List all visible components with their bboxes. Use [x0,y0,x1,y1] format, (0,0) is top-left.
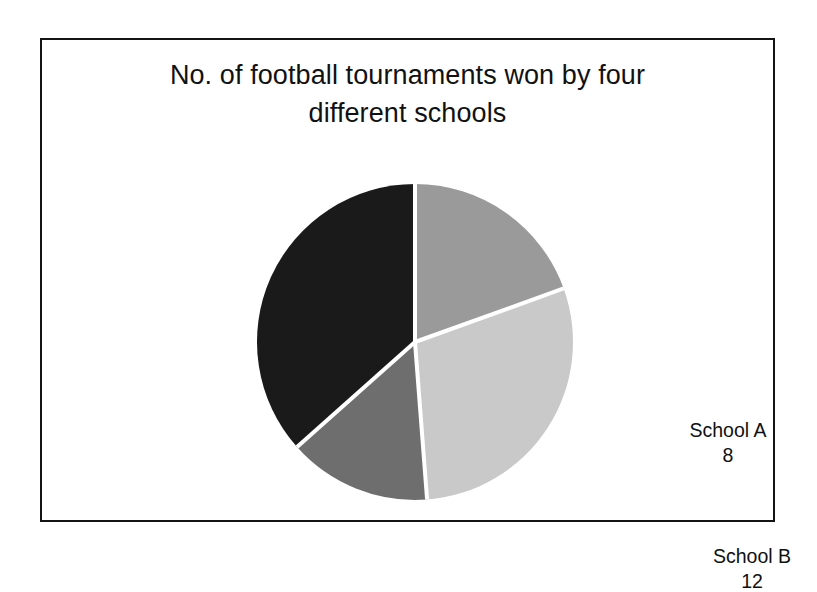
chart-title-line-2: different schools [60,94,755,132]
pie-label-school-b-name: School B [697,544,807,569]
pie-chart-svg [255,182,575,502]
pie-label-school-b-value: 12 [697,569,807,592]
chart-title-line-1: No. of football tournaments won by four [60,56,755,94]
chart-title: No. of football tournaments won by four … [60,56,755,132]
pie-chart: School A 8 School B 12 School C 6 School… [255,182,575,502]
pie-label-school-b: School B 12 [697,544,807,592]
